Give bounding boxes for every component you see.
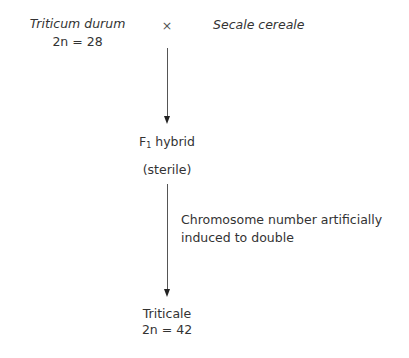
result-chromosomes: 2n = 42 <box>127 322 207 338</box>
hybrid-label: F1 hybrid <box>117 134 217 154</box>
parent1-chromosomes: 2n = 28 <box>20 34 135 50</box>
step-note-line2: induced to double <box>181 230 294 246</box>
arrow-down-icon <box>164 116 170 124</box>
hybrid-note: (sterile) <box>117 162 217 178</box>
arrow-line-1 <box>167 48 168 117</box>
step-note-line1: Chromosome number artificially <box>181 212 382 228</box>
arrow-line-2 <box>167 184 168 290</box>
parent1-name: Triticum durum <box>20 16 135 32</box>
cross-symbol: × <box>157 18 177 34</box>
parent2-name: Secale cereale <box>213 17 305 33</box>
arrow-down-icon <box>164 289 170 297</box>
result-name: Triticale <box>127 306 207 322</box>
